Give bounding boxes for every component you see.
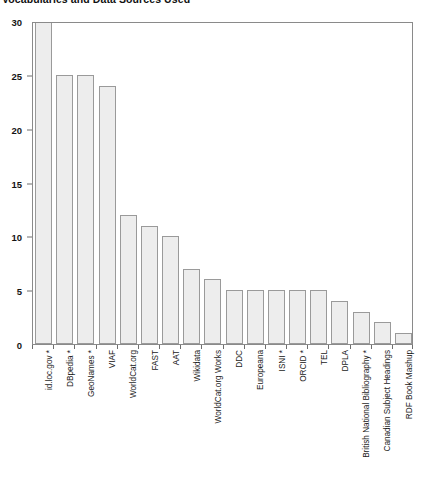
x-tick-mark [350, 345, 351, 349]
x-tick-mark [32, 345, 33, 349]
bar-chart-figure: Vocabularies and Data Sources Used 05101… [0, 0, 444, 496]
y-tick-label: 5 [17, 286, 22, 297]
bar [99, 86, 116, 344]
y-axis: 051015202530 [0, 0, 32, 368]
x-tick-mark [328, 345, 329, 349]
x-axis-label: DBpedia * [67, 350, 75, 387]
x-axis-label-text: British National Bibliography * [363, 350, 371, 458]
x-axis-label: ORCID * [300, 350, 308, 382]
bar [310, 290, 327, 344]
x-axis-label-text: DPLA [342, 350, 350, 371]
x-axis-label-text: AAT [173, 350, 181, 365]
x-axis-label: Europeana [257, 350, 265, 390]
bar [289, 290, 306, 344]
x-axis-label: id.loc.gov * [46, 350, 54, 390]
x-axis-label-text: RDF Book Mashup [406, 350, 414, 419]
x-axis-label: WorldCat.org [130, 350, 138, 398]
bar [183, 269, 200, 344]
bar [77, 75, 94, 344]
x-axis-label: ISNI * [279, 350, 287, 371]
x-axis-label: GeoNames * [88, 350, 96, 397]
x-axis-labels: id.loc.gov *DBpedia *GeoNames *VIAFWorld… [32, 350, 413, 496]
x-axis-label-text: Canadian Subject Headings [384, 350, 392, 452]
x-tick-mark [138, 345, 139, 349]
y-tick-label: 10 [11, 232, 22, 243]
x-tick-mark [96, 345, 97, 349]
x-axis-label: RDF Book Mashup [406, 350, 414, 419]
x-axis-label: WorldCat.org Works [215, 350, 223, 423]
x-tick-mark [117, 345, 118, 349]
x-tick-mark [392, 345, 393, 349]
x-axis-label-text: DDC [236, 350, 244, 368]
x-axis-label-text: GeoNames * [88, 350, 96, 397]
x-axis-label: DDC [236, 350, 244, 368]
x-tick-mark [307, 345, 308, 349]
x-axis-label-text: id.loc.gov * [46, 350, 54, 390]
x-axis-label: British National Bibliography * [363, 350, 371, 458]
x-axis-label: Canadian Subject Headings [384, 350, 392, 452]
x-tick-mark [286, 345, 287, 349]
x-axis-label-text: Wikidata [194, 350, 202, 381]
x-axis-label-text: WorldCat.org [130, 350, 138, 398]
x-tick-mark [159, 345, 160, 349]
x-axis-label: AAT [173, 350, 181, 365]
x-tick-mark [412, 345, 413, 349]
bar [374, 322, 391, 344]
y-tick-label: 20 [11, 124, 22, 135]
y-tick-label: 15 [11, 178, 22, 189]
x-axis-label-text: ISNI * [279, 350, 287, 371]
y-tick-label: 30 [11, 17, 22, 28]
y-tick-label: 25 [11, 70, 22, 81]
x-axis-label-text: TEL [321, 350, 329, 365]
x-tick-mark [244, 345, 245, 349]
x-tick-mark [74, 345, 75, 349]
plot-area [32, 22, 413, 345]
bar [56, 75, 73, 344]
x-tick-mark [180, 345, 181, 349]
x-axis-label-text: DBpedia * [67, 350, 75, 387]
x-axis-label-text: ORCID * [300, 350, 308, 382]
bar [141, 226, 158, 344]
x-axis-label: Wikidata [194, 350, 202, 381]
bar [204, 279, 221, 344]
x-axis-label-text: WorldCat.org Works [215, 350, 223, 423]
x-axis-label-text: FAST [152, 350, 160, 370]
x-tick-mark [371, 345, 372, 349]
x-axis-label-text: VIAF [109, 350, 117, 368]
bar [247, 290, 264, 344]
bar [35, 22, 52, 344]
x-axis-label: FAST [152, 350, 160, 370]
x-tick-mark [265, 345, 266, 349]
x-axis-label-text: Europeana [257, 350, 265, 390]
x-axis-label: DPLA [342, 350, 350, 371]
bar [120, 215, 137, 344]
y-tick-label: 0 [17, 340, 22, 351]
bars-layer [33, 23, 412, 344]
x-tick-mark [223, 345, 224, 349]
bar [331, 301, 348, 344]
x-tick-mark [201, 345, 202, 349]
x-axis-label: VIAF [109, 350, 117, 368]
x-axis-label: TEL [321, 350, 329, 365]
bar [226, 290, 243, 344]
bar [353, 312, 370, 344]
x-tick-mark [53, 345, 54, 349]
bar [162, 236, 179, 344]
bar [395, 333, 412, 344]
bar [268, 290, 285, 344]
